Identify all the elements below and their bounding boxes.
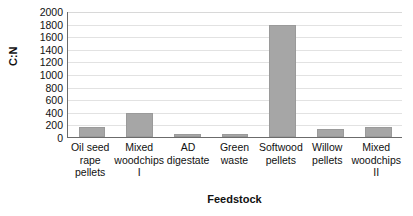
y-axis-tick-label: 1000 — [40, 70, 63, 80]
y-axis-tick-label: 600 — [45, 95, 63, 105]
x-axis-tick-label: Mixed woodchips I — [113, 141, 165, 179]
gridline — [68, 138, 402, 139]
x-axis-tick-label: Willow pellets — [304, 141, 350, 179]
y-axis-tick-label: 200 — [45, 120, 63, 130]
bar-slot — [68, 12, 116, 137]
y-axis-tick-labels: 2000180016001400120010008006004002000 — [22, 12, 66, 138]
bar-slot — [116, 12, 164, 137]
y-axis-tick-label: 1200 — [40, 57, 63, 67]
y-axis-tick-label: 1800 — [40, 20, 63, 30]
x-axis-tick-label: AD digestate — [165, 141, 211, 179]
x-axis-tick-label: Softwood pellets — [258, 141, 304, 179]
bar — [79, 127, 106, 137]
y-axis-title: C:N — [7, 50, 19, 66]
y-axis-tick-label: 1400 — [40, 45, 63, 55]
bar-slot — [259, 12, 307, 137]
bar — [269, 25, 296, 137]
x-axis-tick-label: Oil seed rape pellets — [67, 141, 113, 179]
bar-slot — [354, 12, 402, 137]
bar — [317, 129, 344, 137]
bars-group — [68, 12, 402, 137]
x-axis-tick-labels: Oil seed rape pelletsMixed woodchips IAD… — [67, 141, 402, 179]
y-axis-tick-label: 2000 — [40, 7, 63, 17]
bar — [126, 113, 153, 137]
x-axis-tick-label: Green waste — [211, 141, 257, 179]
bar — [174, 134, 201, 137]
y-axis-tick-label: 800 — [45, 83, 63, 93]
y-axis-tick-label: 1600 — [40, 32, 63, 42]
bar-chart: C:N 200018001600140012001000800600400200… — [0, 0, 413, 216]
bar-slot — [163, 12, 211, 137]
x-axis-tick-label: Mixed woodchips II — [350, 141, 402, 179]
x-axis-title: Feedstock — [67, 193, 402, 205]
y-axis-tick-label: 0 — [57, 133, 63, 143]
bar — [365, 127, 392, 137]
plot-area — [67, 12, 402, 138]
bar-slot — [211, 12, 259, 137]
bar — [222, 134, 249, 137]
y-axis-tick-label: 400 — [45, 108, 63, 118]
bar-slot — [307, 12, 355, 137]
